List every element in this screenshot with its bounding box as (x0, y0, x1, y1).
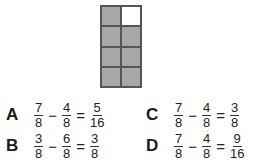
fraction: 48 (202, 102, 211, 129)
minus-sign: − (48, 107, 57, 124)
fraction: 48 (202, 133, 211, 160)
fraction: 916 (230, 133, 244, 160)
option-letter: A (6, 105, 32, 125)
minus-sign: − (188, 107, 197, 124)
answer-option-c[interactable]: C 78 − 48 = 38 (146, 100, 241, 130)
fraction: 78 (34, 102, 43, 129)
fraction: 78 (174, 133, 183, 160)
grid-cell-shaded (101, 6, 121, 26)
fraction: 38 (230, 102, 239, 129)
equals-sign: = (76, 138, 85, 155)
equals-sign: = (216, 107, 225, 124)
grid-cell-shaded (101, 26, 121, 46)
answer-option-a[interactable]: A 78 − 48 = 516 (6, 100, 106, 130)
grid-cell-shaded (121, 47, 141, 67)
fraction: 48 (62, 102, 71, 129)
option-letter: C (146, 105, 172, 125)
equals-sign: = (76, 107, 85, 124)
minus-sign: − (48, 138, 57, 155)
option-letter: B (6, 136, 32, 156)
fraction: 78 (174, 102, 183, 129)
minus-sign: − (188, 138, 197, 155)
fraction: 38 (34, 133, 43, 160)
fraction: 516 (90, 102, 104, 129)
equals-sign: = (216, 138, 225, 155)
fraction-grid-model (100, 5, 142, 88)
option-letter: D (146, 136, 172, 156)
answer-option-b[interactable]: B 38 − 68 = 38 (6, 131, 101, 161)
fraction: 68 (62, 133, 71, 160)
grid-cell-empty (121, 6, 141, 26)
grid-cell-shaded (121, 67, 141, 87)
fraction: 38 (90, 133, 99, 160)
answer-option-d[interactable]: D 78 − 48 = 916 (146, 131, 246, 161)
grid-cell-shaded (101, 67, 121, 87)
grid-cell-shaded (101, 47, 121, 67)
grid-cell-shaded (121, 26, 141, 46)
